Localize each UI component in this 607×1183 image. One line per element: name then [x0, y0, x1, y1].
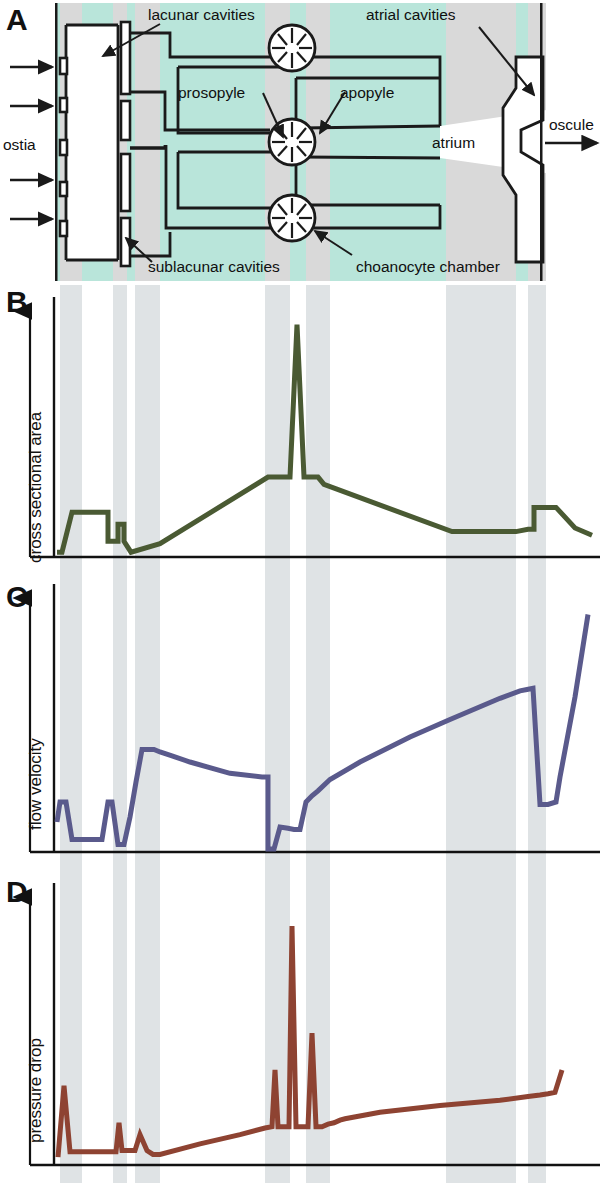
- shaded-band: [135, 580, 160, 875]
- label-choanocyte-chamber: choanocyte chamber: [356, 258, 500, 275]
- lacunar-cavity-lumen: [66, 25, 118, 260]
- panel-b-cross-sectional-area: B cross sectional area: [0, 285, 607, 580]
- panel-c-flow-velocity: C flow velocity: [0, 580, 607, 875]
- panel-a-right-border: [540, 3, 543, 281]
- choanocyte-chamber-top: [269, 25, 315, 71]
- panel-c-letter: C: [6, 582, 28, 612]
- panel-c-plot: [0, 580, 607, 875]
- shaded-band: [446, 580, 516, 875]
- shaded-band: [265, 875, 290, 1183]
- panel-b-axis-label: cross sectional area: [26, 412, 46, 563]
- label-apopyle: apopyle: [340, 84, 394, 101]
- shaded-band: [135, 285, 160, 580]
- shaded-band: [446, 875, 516, 1183]
- panel-a-left-border: [55, 3, 58, 281]
- panel-d-axis-label: pressure drop: [26, 1038, 46, 1143]
- panel-a-svg: lacunar cavities atrial cavities prosopy…: [0, 0, 607, 285]
- panel-c-axis-label: flow velocity: [26, 738, 46, 830]
- label-ostia: ostia: [3, 136, 36, 153]
- shaded-band: [446, 285, 516, 580]
- sponge-aquiferous-system-figure: A: [0, 0, 607, 1183]
- panel-b-letter: B: [6, 287, 28, 317]
- panel-a-diagram: A: [0, 0, 607, 285]
- panel-a-letter: A: [6, 5, 28, 35]
- label-atrial-cavities: atrial cavities: [366, 6, 456, 23]
- shaded-band: [306, 580, 330, 875]
- shaded-band: [265, 285, 290, 580]
- label-prosopyle: prosopyle: [178, 84, 245, 101]
- shaded-band: [306, 285, 330, 580]
- panel-d-letter: D: [6, 877, 28, 907]
- choanocyte-chamber-middle: [269, 119, 315, 165]
- label-oscule: oscule: [549, 116, 594, 133]
- choanocyte-chamber-bottom: [269, 195, 315, 241]
- shaded-band: [60, 285, 82, 580]
- label-sublacunar-cavities: sublacunar cavities: [148, 258, 280, 275]
- panel-b-plot: [0, 285, 607, 580]
- shaded-bands-c: [60, 580, 546, 875]
- shaded-bands-d: [60, 875, 546, 1183]
- shaded-band: [528, 875, 546, 1183]
- label-atrium: atrium: [432, 134, 475, 151]
- panel-d-plot: [0, 875, 607, 1183]
- shaded-band: [528, 285, 546, 580]
- panel-d-pressure-drop: D pressure drop: [0, 875, 607, 1183]
- label-lacunar-cavities: lacunar cavities: [148, 6, 255, 23]
- shaded-band: [306, 875, 330, 1183]
